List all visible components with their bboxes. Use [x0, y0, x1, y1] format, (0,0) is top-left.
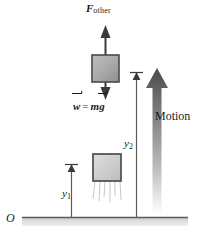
force-subscript: other: [93, 6, 110, 15]
y2-subscript: 2: [129, 142, 133, 151]
block-lower: [93, 154, 121, 181]
weight-label: w=mg: [73, 101, 105, 112]
y1-label: y1: [62, 188, 71, 201]
origin-label: O: [6, 212, 15, 224]
force-label: Fother: [86, 3, 111, 15]
weight-vector-symbol: w: [73, 101, 80, 112]
y2-label: y2: [124, 138, 133, 151]
y1-subscript: 1: [67, 192, 71, 201]
mass-symbol: m: [91, 100, 100, 112]
gravity-vector-symbol: g: [99, 101, 105, 112]
motion-label: Motion: [155, 110, 190, 122]
force-vector-symbol: F: [86, 3, 93, 14]
ground: [22, 218, 188, 227]
motion-arrow: [146, 68, 168, 215]
weight-equals-sign: =: [82, 100, 88, 112]
block-upper: [92, 55, 119, 82]
physics-free-body-diagram: Fother w=mg Motion y2 y1 O: [0, 0, 201, 242]
blur-lines: [93, 181, 121, 202]
